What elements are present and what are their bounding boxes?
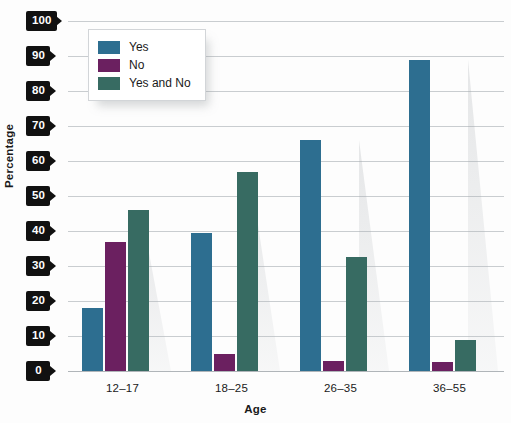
y-axis-tick-label: 80: [26, 83, 56, 100]
y-axis-tick-value: 40: [26, 221, 50, 241]
legend-color-swatch: [98, 59, 120, 72]
gridline: [68, 126, 504, 127]
y-axis-tick-value: 30: [26, 256, 50, 276]
y-axis-tick-value: 60: [26, 151, 50, 171]
y-axis-tick-value: 100: [26, 11, 57, 31]
tick-pointer-icon: [50, 121, 56, 131]
bar-fill: [82, 308, 103, 371]
y-axis-tick-value: 0: [26, 361, 50, 381]
x-axis-tick-label: 36–55: [395, 382, 504, 394]
tick-pointer-icon: [50, 86, 56, 96]
bar-fill: [191, 233, 212, 371]
bar[interactable]: [346, 257, 367, 371]
bar[interactable]: [455, 340, 476, 372]
y-axis-tick-label: 0: [26, 363, 56, 380]
y-axis-tick-label: 40: [26, 223, 56, 240]
tick-pointer-icon: [50, 296, 56, 306]
y-axis-tick-value: 90: [26, 46, 50, 66]
gridline: [68, 196, 504, 197]
bar-fill: [409, 60, 430, 372]
legend-label: Yes and No: [129, 77, 191, 89]
y-axis-tick-label: 50: [26, 188, 56, 205]
legend-item-yes-and-no[interactable]: Yes and No: [98, 74, 191, 92]
bar-fill: [105, 242, 126, 372]
y-axis-tick-value: 10: [26, 326, 50, 346]
bar[interactable]: [432, 362, 453, 371]
bar-fill: [432, 362, 453, 371]
bar[interactable]: [237, 172, 258, 372]
gridline: [68, 21, 504, 22]
gridline: [68, 371, 504, 372]
legend-item-no[interactable]: No: [98, 56, 191, 74]
bar[interactable]: [300, 140, 321, 371]
y-axis-tick-label: 20: [26, 293, 56, 310]
y-axis-tick-value: 50: [26, 186, 50, 206]
y-axis-tick-value: 70: [26, 116, 50, 136]
y-axis-tick-value: 80: [26, 81, 50, 101]
bar-fill: [323, 361, 344, 372]
tick-pointer-icon: [50, 156, 56, 166]
chart-legend: YesNoYes and No: [88, 29, 206, 101]
bar-shadow: [468, 60, 498, 372]
bar[interactable]: [191, 233, 212, 371]
bar[interactable]: [82, 308, 103, 371]
y-axis-tick-label: 70: [26, 118, 56, 135]
legend-label: Yes: [129, 41, 149, 53]
y-axis-tick-label: 100: [26, 13, 62, 30]
legend-color-swatch: [98, 77, 120, 90]
bar-fill: [346, 257, 367, 371]
tick-pointer-icon: [50, 261, 56, 271]
legend-label: No: [129, 59, 144, 71]
tick-pointer-icon: [50, 51, 56, 61]
y-axis-tick-label: 30: [26, 258, 56, 275]
x-axis-title: Age: [0, 403, 511, 415]
tick-pointer-icon: [50, 366, 56, 376]
tick-pointer-icon: [50, 331, 56, 341]
legend-item-yes[interactable]: Yes: [98, 38, 191, 56]
bar[interactable]: [409, 60, 430, 372]
bar-chart: Percentage 1009080706050403020100 12–171…: [0, 0, 511, 423]
tick-pointer-icon: [50, 226, 56, 236]
x-axis-tick-label: 12–17: [68, 382, 177, 394]
y-axis-tick-value: 20: [26, 291, 50, 311]
tick-pointer-icon: [56, 16, 62, 26]
bar-fill: [455, 340, 476, 372]
bar-fill: [128, 210, 149, 371]
bar-fill: [214, 354, 235, 372]
x-axis-tick-label: 18–25: [177, 382, 286, 394]
y-axis-tick-label: 90: [26, 48, 56, 65]
x-axis-tick-label: 26–35: [286, 382, 395, 394]
legend-color-swatch: [98, 41, 120, 54]
gridline: [68, 161, 504, 162]
y-axis-title: Percentage: [3, 96, 15, 216]
bar[interactable]: [105, 242, 126, 372]
bar-fill: [300, 140, 321, 371]
y-axis-tick-label: 60: [26, 153, 56, 170]
y-axis-tick-label: 10: [26, 328, 56, 345]
bar[interactable]: [323, 361, 344, 372]
bar[interactable]: [128, 210, 149, 371]
tick-pointer-icon: [50, 191, 56, 201]
bar-fill: [237, 172, 258, 372]
bar[interactable]: [214, 354, 235, 372]
